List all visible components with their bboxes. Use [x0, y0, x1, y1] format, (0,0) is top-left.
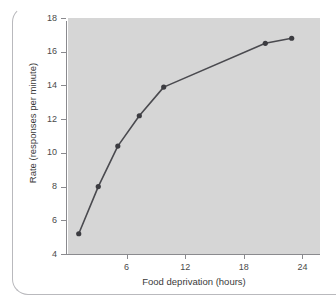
series-layer — [0, 0, 336, 307]
data-point — [115, 144, 120, 149]
series-markers — [76, 36, 294, 237]
data-point — [137, 113, 142, 118]
data-point — [76, 231, 81, 236]
data-point — [96, 184, 101, 189]
data-point — [289, 36, 294, 41]
series-line — [79, 38, 292, 234]
data-point — [263, 41, 268, 46]
data-point — [161, 85, 166, 90]
line-chart: 4681012141618 6121824 Rate (responses pe… — [0, 0, 336, 307]
